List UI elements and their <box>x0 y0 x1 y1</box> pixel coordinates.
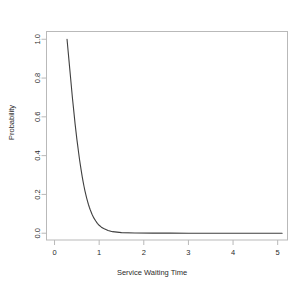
x-tick-label: 5 <box>276 248 280 257</box>
chart-figure: Exponential Distribution for Service Pro… <box>0 0 304 288</box>
y-tick-label: 0.0 <box>33 228 42 238</box>
x-tick-label: 3 <box>186 248 190 257</box>
y-tick-label: 0.8 <box>33 73 42 83</box>
x-tick-label: 2 <box>142 248 146 257</box>
plot-frame <box>47 32 288 241</box>
x-tick-label: 0 <box>52 248 56 257</box>
y-axis-label: Probability <box>7 88 16 158</box>
plot-area: 012345 0.00.20.40.60.81.0 <box>0 0 304 288</box>
y-tick-label: 0.6 <box>33 112 42 122</box>
x-tick-label: 4 <box>231 248 235 257</box>
x-axis-label: Service Waiting Time <box>0 268 304 277</box>
y-tick-label: 0.2 <box>33 189 42 199</box>
y-tick-label: 1.0 <box>33 34 42 44</box>
x-tick-label: 1 <box>97 248 101 257</box>
y-tick-label: 0.4 <box>33 150 42 160</box>
